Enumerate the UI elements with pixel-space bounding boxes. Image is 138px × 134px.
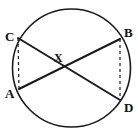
vertex-label-D: D [124,101,133,114]
chord-AB [19,39,120,89]
circle-outline [13,9,131,127]
intersection-label-X: X [54,52,63,64]
segment-CA-dashed [18,38,19,89]
vertex-label-B: B [124,26,133,39]
vertex-label-A: A [5,87,14,100]
vertex-label-C: C [5,30,14,43]
geometry-figure: C B X A D [0,0,138,134]
geometry-canvas [0,0,138,134]
